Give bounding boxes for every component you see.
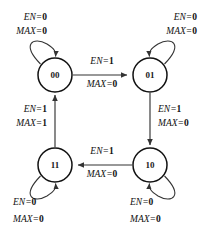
transition-10-11-en-value: 1 <box>109 146 114 156</box>
self-loop-11-en-value: 0 <box>32 197 37 207</box>
state-node-00[interactable]: 00 <box>38 58 72 92</box>
self-loop-01-max-line: MAX=0 <box>165 26 197 36</box>
state-label-01: 01 <box>146 70 156 80</box>
self-loop-11-max-value: 0 <box>39 214 44 224</box>
self-loop-label-10: EN=0 MAX=0 <box>129 197 161 224</box>
state-node-01[interactable]: 01 <box>133 58 167 92</box>
transition-00-01-en-var: EN <box>89 56 103 66</box>
self-loop-11-en-line: EN=0 <box>12 197 37 207</box>
transition-10-11-en-line: EN=1 <box>89 146 114 156</box>
self-loop-00-en-line: EN=0 <box>23 12 48 22</box>
transition-11-00-max-line: MAX=1 <box>15 118 47 128</box>
fsm-canvas: 00 01 11 10 EN=0 MAX=0 EN=0 <box>0 0 205 231</box>
state-node-11[interactable]: 11 <box>38 148 72 182</box>
transition-01-10-max-line: MAX=0 <box>157 118 189 128</box>
self-loop-00-en-value: 0 <box>42 12 47 22</box>
self-loop-01-en-var: EN <box>173 12 187 22</box>
self-loop-10-en-var: EN <box>129 197 143 207</box>
transition-00-01-max-line: MAX=0 <box>86 79 118 89</box>
state-label-10: 10 <box>146 160 156 170</box>
transition-10-11-max-value: 0 <box>113 169 118 179</box>
transition-label-11-to-00: EN=1 MAX=1 <box>15 104 47 128</box>
transition-00-01-en-value: 1 <box>109 56 114 66</box>
self-loop-10-max-value: 0 <box>156 214 161 224</box>
transition-11-00-en-var: EN <box>23 104 37 114</box>
state-label-00: 00 <box>51 70 61 80</box>
transition-11-00-max-value: 1 <box>42 118 47 128</box>
self-loop-10-en-value: 0 <box>149 197 154 207</box>
state-label-11: 11 <box>51 160 60 170</box>
self-loop-label-01: EN=0 MAX=0 <box>165 12 197 36</box>
transition-10-11-max-line: MAX=0 <box>86 169 118 179</box>
transition-00-01-max-var: MAX <box>86 79 108 89</box>
transition-label-10-to-11: EN=1 MAX=0 <box>86 146 118 179</box>
transition-11-00-en-line: EN=1 <box>23 104 48 114</box>
self-loop-10-en-line: EN=0 <box>129 197 154 207</box>
transition-label-01-to-10: EN=1 MAX=0 <box>157 104 189 128</box>
self-loop-11-en-var: EN <box>12 197 26 207</box>
self-loop-10-max-line: MAX=0 <box>129 214 161 224</box>
self-loop-01-max-var: MAX <box>165 26 187 36</box>
self-loop-01-en-line: EN=0 <box>173 12 198 22</box>
self-loop-00-max-var: MAX <box>15 26 37 36</box>
self-loop-11-max-line: MAX=0 <box>12 214 44 224</box>
transition-01-10-en-value: 1 <box>177 104 182 114</box>
self-loop-label-00: EN=0 MAX=0 <box>15 12 47 36</box>
self-loop-00-max-line: MAX=0 <box>15 26 47 36</box>
transition-01-10-max-value: 0 <box>184 118 189 128</box>
self-loop-11-max-var: MAX <box>12 214 34 224</box>
transition-10-11-en-var: EN <box>89 146 103 156</box>
self-loop-00-max-value: 0 <box>42 26 47 36</box>
self-loop-00-en-var: EN <box>23 12 37 22</box>
transition-01-10-en-var: EN <box>157 104 171 114</box>
transition-00-01-max-value: 0 <box>113 79 118 89</box>
transition-label-00-to-01: EN=1 MAX=0 <box>86 56 118 89</box>
state-transition-diagram: 00 01 11 10 EN=0 MAX=0 EN=0 <box>0 0 205 231</box>
transition-01-10-max-var: MAX <box>157 118 179 128</box>
transition-01-10-en-line: EN=1 <box>157 104 182 114</box>
self-loop-label-11: EN=0 MAX=0 <box>12 197 44 224</box>
transition-00-01-en-line: EN=1 <box>89 56 114 66</box>
self-loop-01-en-value: 0 <box>192 12 197 22</box>
self-loop-01-max-value: 0 <box>192 26 197 36</box>
state-node-10[interactable]: 10 <box>133 148 167 182</box>
transition-11-00-max-var: MAX <box>15 118 37 128</box>
self-loop-10-max-var: MAX <box>129 214 151 224</box>
transition-10-11-max-var: MAX <box>86 169 108 179</box>
transition-11-00-en-value: 1 <box>42 104 47 114</box>
